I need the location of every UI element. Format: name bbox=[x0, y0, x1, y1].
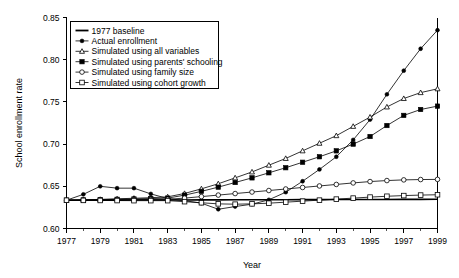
data-point-marker bbox=[233, 180, 237, 184]
data-point-marker bbox=[300, 160, 304, 164]
data-point-marker bbox=[435, 177, 440, 182]
data-point-marker bbox=[216, 207, 220, 211]
legend-label: Simulated using parents' schooling bbox=[92, 57, 223, 67]
legend-item-3[interactable]: Simulated using all variables bbox=[76, 46, 200, 56]
data-point-marker bbox=[317, 141, 322, 146]
data-point-marker bbox=[284, 166, 288, 170]
x-tick-label: 1979 bbox=[91, 236, 110, 246]
data-point-marker bbox=[132, 186, 136, 190]
data-point-marker bbox=[300, 185, 305, 190]
data-point-marker bbox=[334, 149, 338, 153]
data-point-marker bbox=[115, 198, 120, 203]
data-point-marker bbox=[317, 184, 322, 189]
data-point-marker bbox=[283, 200, 288, 205]
data-point-marker bbox=[216, 202, 221, 207]
x-tick-label: 1995 bbox=[361, 236, 380, 246]
data-point-marker bbox=[351, 142, 355, 146]
series-3 bbox=[64, 86, 440, 202]
data-point-marker bbox=[418, 177, 423, 182]
data-point-marker bbox=[283, 156, 288, 161]
legend-label: Actual enrollment bbox=[92, 36, 158, 46]
series-line bbox=[67, 89, 438, 200]
x-tick-label: 1985 bbox=[192, 236, 211, 246]
data-point-marker bbox=[132, 198, 137, 203]
data-point-marker bbox=[64, 198, 69, 203]
series-line bbox=[67, 106, 438, 200]
x-tick-label: 1981 bbox=[124, 236, 143, 246]
data-point-marker bbox=[300, 199, 305, 204]
chart-canvas: 0.600.650.700.750.800.851977197919811983… bbox=[0, 0, 459, 278]
data-point-marker bbox=[385, 123, 389, 127]
legend-label: Simulated using family size bbox=[92, 67, 195, 77]
data-point-marker bbox=[216, 185, 220, 189]
data-point-marker bbox=[267, 201, 272, 206]
data-point-marker bbox=[80, 70, 85, 75]
y-tick-label: 0.70 bbox=[43, 139, 60, 149]
data-point-marker bbox=[318, 168, 322, 172]
x-tick-label: 1983 bbox=[158, 236, 177, 246]
data-point-marker bbox=[199, 189, 203, 193]
data-point-marker bbox=[368, 179, 373, 184]
data-point-marker bbox=[250, 190, 255, 195]
legend-item-5[interactable]: Simulated using family size bbox=[76, 67, 195, 77]
data-point-marker bbox=[317, 198, 322, 203]
data-point-marker bbox=[419, 47, 423, 51]
data-point-marker bbox=[436, 28, 440, 32]
data-point-marker bbox=[351, 124, 356, 129]
legend-label: Simulated using all variables bbox=[92, 46, 200, 56]
data-point-marker bbox=[165, 198, 170, 203]
data-point-marker bbox=[435, 86, 440, 91]
data-point-marker bbox=[351, 181, 356, 186]
data-point-marker bbox=[435, 104, 439, 108]
series-4 bbox=[64, 104, 439, 203]
legend-item-4[interactable]: Simulated using parents' schooling bbox=[76, 57, 223, 67]
x-tick-label: 1993 bbox=[327, 236, 346, 246]
data-point-marker bbox=[401, 193, 406, 198]
data-point-marker bbox=[250, 202, 255, 207]
data-point-marker bbox=[334, 197, 339, 202]
data-point-marker bbox=[334, 182, 339, 187]
x-tick-label: 1991 bbox=[293, 236, 312, 246]
data-point-marker bbox=[317, 155, 321, 159]
x-tick-label: 1989 bbox=[259, 236, 278, 246]
data-point-marker bbox=[435, 192, 440, 197]
data-point-marker bbox=[384, 104, 389, 109]
enrollment-rate-line-chart: 0.600.650.700.750.800.851977197919811983… bbox=[0, 0, 459, 278]
data-point-marker bbox=[80, 60, 84, 64]
data-point-marker bbox=[402, 69, 406, 73]
legend-label: Simulated using cohort growth bbox=[92, 78, 207, 88]
data-point-marker bbox=[98, 184, 102, 188]
data-point-marker bbox=[149, 198, 154, 203]
y-tick-label: 0.75 bbox=[43, 97, 60, 107]
data-point-marker bbox=[334, 133, 339, 138]
data-point-marker bbox=[351, 138, 355, 142]
y-tick-label: 0.60 bbox=[43, 224, 60, 234]
data-point-marker bbox=[233, 191, 238, 196]
data-point-marker bbox=[267, 188, 272, 193]
x-tick-label: 1977 bbox=[57, 236, 76, 246]
data-point-marker bbox=[115, 186, 119, 190]
data-point-marker bbox=[418, 107, 422, 111]
data-point-marker bbox=[402, 113, 406, 117]
x-tick-label: 1987 bbox=[226, 236, 245, 246]
data-point-marker bbox=[80, 80, 85, 85]
data-point-marker bbox=[368, 195, 373, 200]
data-point-marker bbox=[401, 178, 406, 183]
data-point-marker bbox=[385, 178, 390, 183]
data-point-marker bbox=[81, 192, 85, 196]
y-axis-title: School enrollment rate bbox=[14, 78, 24, 168]
data-point-marker bbox=[385, 92, 389, 96]
data-point-marker bbox=[233, 202, 238, 207]
x-tick-label: 1999 bbox=[428, 236, 447, 246]
legend-label: 1977 baseline bbox=[92, 26, 145, 36]
y-tick-label: 0.65 bbox=[43, 181, 60, 191]
data-point-marker bbox=[418, 193, 423, 198]
data-point-marker bbox=[199, 200, 204, 205]
legend-item-6[interactable]: Simulated using cohort growth bbox=[76, 78, 207, 88]
data-point-marker bbox=[385, 194, 390, 199]
data-point-marker bbox=[368, 134, 372, 138]
y-tick-label: 0.85 bbox=[43, 13, 60, 23]
x-axis-title: Year bbox=[243, 260, 261, 270]
y-tick-label: 0.80 bbox=[43, 55, 60, 65]
data-point-marker bbox=[98, 198, 103, 203]
